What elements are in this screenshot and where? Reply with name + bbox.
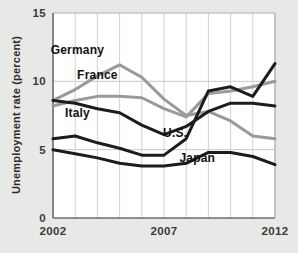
x-tick-label: 2012: [262, 225, 289, 237]
y-tick-label: 5: [39, 144, 46, 156]
y-axis-title: Unemployment rate (percent): [10, 36, 22, 194]
x-tick-label: 2007: [151, 225, 178, 237]
y-tick-label: 0: [39, 212, 46, 224]
unemployment-rate-line-chart: 051015 200220072012 GermanyFranceItalyU.…: [0, 0, 298, 253]
series-label-germany: Germany: [51, 43, 105, 57]
chart-figure: 051015 200220072012 GermanyFranceItalyU.…: [0, 0, 298, 253]
series-label-italy: Italy: [65, 106, 90, 120]
y-tick-label: 10: [33, 75, 46, 87]
y-tick-label: 15: [33, 7, 47, 19]
series-label-u-s-: U.S.: [163, 126, 187, 140]
series-label-france: France: [77, 68, 118, 82]
series-label-japan: Japan: [179, 151, 215, 165]
x-tick-label: 2002: [40, 225, 67, 237]
